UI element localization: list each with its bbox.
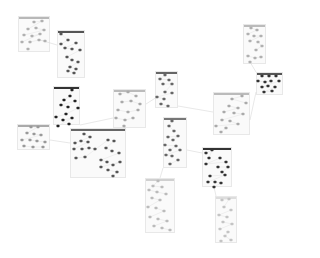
- graph-node[interactable]: [278, 80, 281, 82]
- graph-node[interactable]: [217, 166, 220, 168]
- graph-node[interactable]: [21, 41, 24, 43]
- graph-node[interactable]: [60, 43, 63, 45]
- graph-node[interactable]: [107, 169, 110, 171]
- graph-node[interactable]: [119, 161, 122, 163]
- graph-node[interactable]: [228, 105, 231, 107]
- graph-node[interactable]: [71, 89, 74, 91]
- graph-node[interactable]: [245, 102, 248, 104]
- graph-node[interactable]: [223, 111, 226, 113]
- graph-node[interactable]: [35, 27, 38, 29]
- graph-node[interactable]: [69, 95, 72, 97]
- graph-node[interactable]: [33, 133, 36, 135]
- graph-node[interactable]: [161, 186, 164, 188]
- graph-node[interactable]: [261, 45, 264, 47]
- graph-node[interactable]: [116, 171, 119, 173]
- graph-node[interactable]: [148, 189, 151, 191]
- graph-node[interactable]: [100, 159, 103, 161]
- graph-node[interactable]: [112, 164, 115, 166]
- graph-node[interactable]: [164, 91, 167, 93]
- graph-node[interactable]: [165, 154, 168, 156]
- graph-node[interactable]: [257, 80, 260, 82]
- graph-node[interactable]: [275, 75, 278, 77]
- graph-node[interactable]: [139, 103, 142, 105]
- graph-node[interactable]: [230, 209, 233, 211]
- graph-node[interactable]: [147, 206, 150, 208]
- graph-node[interactable]: [260, 56, 263, 58]
- graph-node[interactable]: [171, 92, 174, 94]
- graph-node[interactable]: [179, 149, 182, 151]
- graph-node[interactable]: [221, 171, 224, 173]
- graph-node[interactable]: [87, 141, 90, 143]
- graph-node[interactable]: [155, 207, 158, 209]
- graph-node[interactable]: [205, 163, 208, 165]
- graph-node[interactable]: [237, 123, 240, 125]
- graph-node[interactable]: [157, 218, 160, 220]
- graph-node[interactable]: [225, 161, 228, 163]
- graph-node[interactable]: [33, 21, 36, 23]
- graph-node[interactable]: [112, 175, 115, 177]
- graph-node[interactable]: [106, 161, 109, 163]
- graph-node[interactable]: [209, 175, 212, 177]
- graph-node[interactable]: [231, 98, 234, 100]
- graph-node[interactable]: [66, 56, 69, 58]
- graph-node[interactable]: [270, 80, 273, 82]
- graph-node[interactable]: [159, 199, 162, 201]
- graph-node[interactable]: [30, 126, 33, 128]
- graph-node[interactable]: [74, 100, 77, 102]
- graph-node[interactable]: [175, 145, 178, 147]
- graph-node[interactable]: [71, 48, 74, 50]
- graph-node[interactable]: [221, 199, 224, 201]
- graph-node[interactable]: [132, 117, 135, 119]
- graph-node[interactable]: [81, 148, 84, 150]
- graph-node[interactable]: [39, 33, 42, 35]
- graph-node[interactable]: [36, 140, 39, 142]
- graph-node[interactable]: [249, 40, 252, 42]
- graph-node[interactable]: [225, 127, 228, 129]
- graph-node[interactable]: [41, 20, 44, 22]
- graph-node[interactable]: [205, 152, 208, 154]
- graph-node[interactable]: [249, 61, 252, 63]
- graph-node[interactable]: [84, 156, 87, 158]
- graph-node[interactable]: [68, 123, 71, 125]
- graph-node[interactable]: [227, 231, 230, 233]
- graph-node[interactable]: [247, 55, 250, 57]
- graph-node[interactable]: [261, 86, 264, 88]
- graph-node[interactable]: [83, 133, 86, 135]
- graph-node[interactable]: [31, 35, 34, 37]
- graph-node[interactable]: [254, 57, 257, 59]
- graph-node[interactable]: [215, 125, 218, 127]
- graph-node[interactable]: [219, 228, 222, 230]
- graph-node[interactable]: [124, 119, 127, 121]
- graph-node[interactable]: [42, 146, 45, 148]
- graph-node[interactable]: [157, 180, 160, 182]
- graph-node[interactable]: [130, 100, 133, 102]
- graph-node[interactable]: [57, 125, 60, 127]
- graph-node[interactable]: [75, 68, 78, 70]
- graph-node[interactable]: [163, 210, 166, 212]
- graph-node[interactable]: [229, 120, 232, 122]
- graph-node[interactable]: [171, 83, 174, 85]
- graph-node[interactable]: [171, 155, 174, 157]
- graph-node[interactable]: [119, 93, 122, 95]
- graph-node[interactable]: [67, 106, 70, 108]
- graph-node[interactable]: [247, 33, 250, 35]
- graph-node[interactable]: [55, 116, 58, 118]
- graph-node[interactable]: [260, 35, 263, 37]
- graph-node[interactable]: [135, 95, 138, 97]
- graph-node[interactable]: [169, 149, 172, 151]
- graph-node[interactable]: [218, 214, 221, 216]
- graph-node[interactable]: [162, 83, 165, 85]
- graph-node[interactable]: [156, 96, 159, 98]
- graph-node[interactable]: [168, 125, 171, 127]
- graph-node[interactable]: [164, 74, 167, 76]
- graph-node[interactable]: [257, 41, 260, 43]
- graph-node[interactable]: [219, 157, 222, 159]
- graph-node[interactable]: [223, 206, 226, 208]
- graph-node[interactable]: [264, 81, 267, 83]
- graph-node[interactable]: [263, 91, 266, 93]
- graph-node[interactable]: [221, 119, 224, 121]
- graph-node[interactable]: [111, 150, 114, 152]
- graph-node[interactable]: [115, 117, 118, 119]
- graph-node[interactable]: [38, 39, 41, 41]
- graph-node[interactable]: [27, 48, 30, 50]
